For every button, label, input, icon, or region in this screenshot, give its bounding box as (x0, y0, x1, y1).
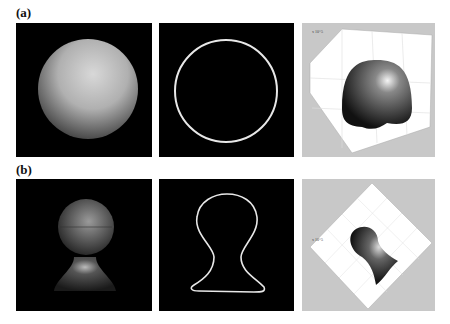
sphere-render (16, 23, 152, 157)
circle-contour-panel (159, 23, 294, 157)
row-a-label: (a) (16, 5, 31, 21)
keyhole-render (16, 179, 152, 311)
axis-exponent: x 10^5 (312, 29, 323, 34)
surface-plot-b-panel: x 10^5 (302, 179, 435, 311)
shaded-sphere-panel (16, 23, 152, 157)
circle-contour (159, 23, 294, 157)
keyhole-contour (159, 179, 294, 311)
axis-exponent-b: x 10^5 (312, 237, 323, 242)
surface-plot-a-panel: x 10^5 (302, 23, 435, 157)
shaded-keyhole-panel (16, 179, 152, 311)
surface-plot-b: x 10^5 (302, 179, 435, 311)
keyhole-contour-panel (159, 179, 294, 311)
row-b-label: (b) (16, 162, 32, 178)
surface-plot-a: x 10^5 (302, 23, 435, 157)
